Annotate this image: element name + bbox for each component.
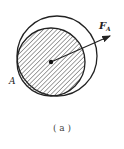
center-dot [49,60,53,64]
force-label: FA [98,20,111,32]
point-a-label: A [8,76,16,86]
figure-caption: ( a ) [53,123,71,133]
diagram-canvas: A FA ( a ) [0,0,124,149]
force-subscript: A [105,25,111,32]
